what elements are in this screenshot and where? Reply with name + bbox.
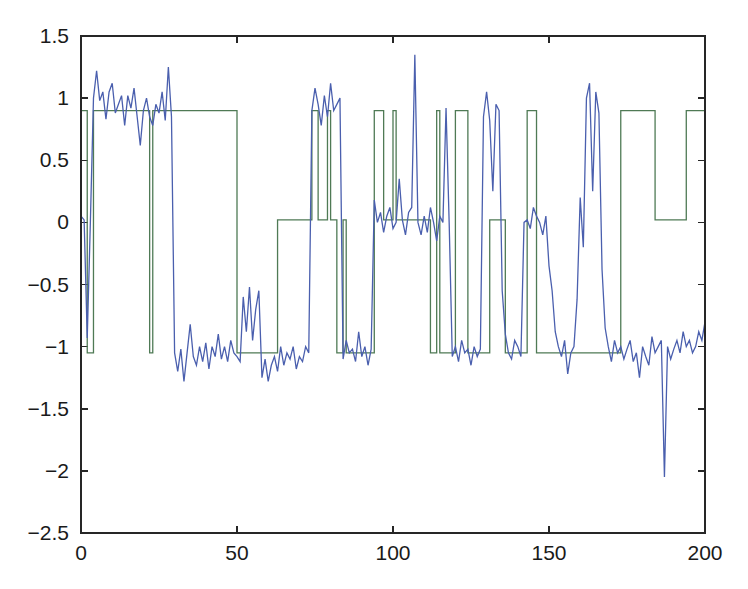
x-tick-label: 150	[531, 541, 566, 564]
y-tick-label: −0.5	[28, 273, 69, 296]
y-tick-label: 0.5	[40, 148, 69, 171]
y-tick-label: 1	[57, 86, 69, 109]
y-tick-label: −2.5	[28, 521, 69, 544]
x-tick-label: 0	[75, 541, 87, 564]
figure-container: 1.510.50−0.5−1−1.5−2−2.5 050100150200	[0, 0, 748, 589]
y-tick-label: 1.5	[40, 24, 69, 47]
x-tick-label: 100	[375, 541, 410, 564]
x-tick-label: 50	[225, 541, 248, 564]
x-tick-label: 200	[687, 541, 722, 564]
chart-plot: 1.510.50−0.5−1−1.5−2−2.5 050100150200	[0, 0, 748, 589]
y-tick-label: −1	[45, 335, 69, 358]
y-tick-label: −2	[45, 459, 69, 482]
y-tick-label: 0	[57, 210, 69, 233]
y-tick-label: −1.5	[28, 397, 69, 420]
